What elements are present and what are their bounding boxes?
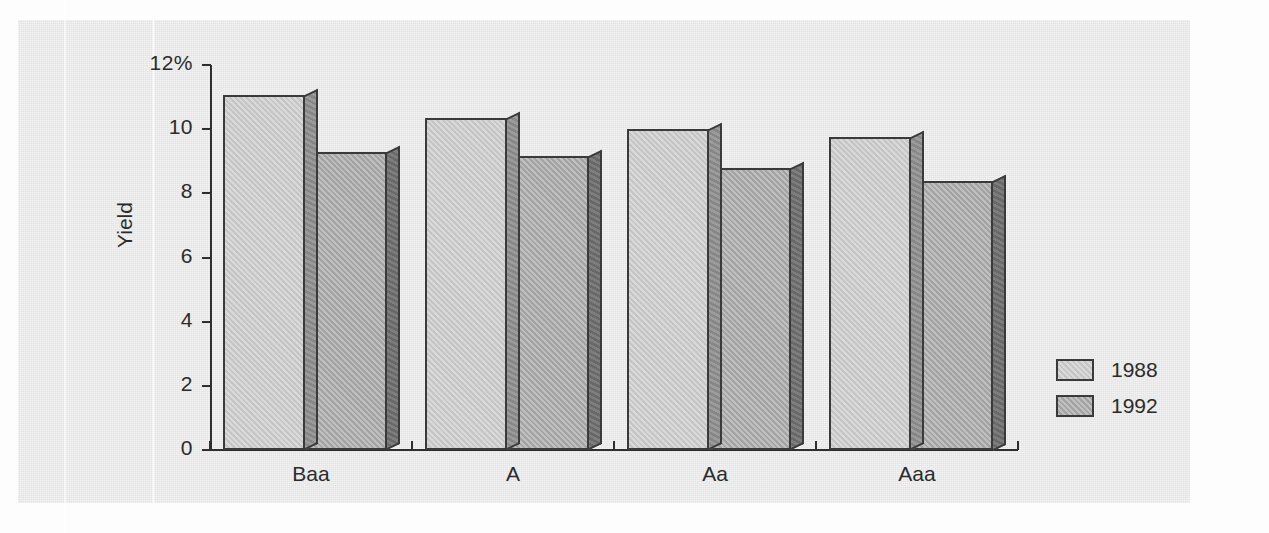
bar-side-face <box>387 145 400 450</box>
light-gray-swatch <box>1056 359 1094 381</box>
bar-baa-1988 <box>223 95 305 450</box>
bar-aaa-1988 <box>829 137 911 450</box>
bar-chart: Yield 12%1086420 BaaAAaAaa 19881992 <box>0 0 1269 533</box>
legend-item-1992: 1992 <box>1056 388 1158 424</box>
chart-legend: 19881992 <box>1056 352 1158 424</box>
bar-front-face <box>425 118 507 450</box>
bar-front-face <box>627 129 709 450</box>
legend-label-1992: 1992 <box>1111 394 1158 418</box>
x-tick-2 <box>613 441 615 450</box>
x-category-label-aaa: Aaa <box>857 462 977 486</box>
y-tick-label-2: 2 <box>181 372 193 396</box>
y-tick-8 <box>202 192 211 194</box>
x-tick-4 <box>1017 441 1019 450</box>
y-tick-12 <box>202 64 211 66</box>
y-tick-6 <box>202 257 211 259</box>
bar-side-face <box>709 123 722 450</box>
bar-a-1988 <box>425 118 507 450</box>
y-tick-2 <box>202 385 211 387</box>
bar-side-face <box>507 112 520 450</box>
bar-side-face <box>589 150 602 450</box>
x-category-label-aa: Aa <box>655 462 775 486</box>
bar-front-face <box>223 95 305 450</box>
y-tick-label-12: 12% <box>149 51 193 75</box>
x-tick-0 <box>209 441 211 450</box>
x-category-label-a: A <box>453 462 573 486</box>
x-tick-3 <box>815 441 817 450</box>
y-tick-label-8: 8 <box>181 179 193 203</box>
legend-item-1988: 1988 <box>1056 352 1158 388</box>
y-axis-title: Yield <box>113 202 137 248</box>
bar-side-face <box>305 89 318 450</box>
bar-front-face <box>829 137 911 450</box>
bar-side-face <box>993 174 1006 450</box>
bar-aa-1988 <box>627 129 709 450</box>
y-tick-label-0: 0 <box>181 436 193 460</box>
dark-gray-swatch <box>1056 395 1094 417</box>
legend-label-1988: 1988 <box>1111 358 1158 382</box>
x-tick-1 <box>411 441 413 450</box>
y-tick-4 <box>202 321 211 323</box>
x-category-label-baa: Baa <box>251 462 371 486</box>
bar-side-face <box>791 161 804 450</box>
y-tick-10 <box>202 128 211 130</box>
bar-side-face <box>911 131 924 450</box>
y-tick-label-10: 10 <box>169 115 193 139</box>
y-tick-label-6: 6 <box>181 244 193 268</box>
y-tick-label-4: 4 <box>181 308 193 332</box>
